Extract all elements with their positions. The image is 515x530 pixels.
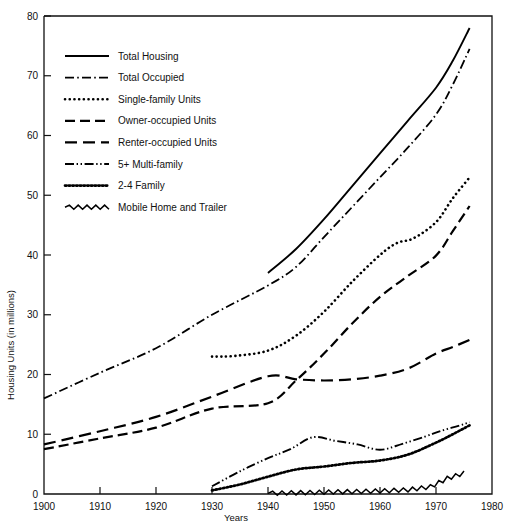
legend-label: Total Occupied: [118, 72, 184, 83]
y-tick-label: 60: [27, 130, 39, 141]
x-tick-label: 1910: [89, 501, 112, 512]
legend-item: Total Occupied: [65, 72, 184, 83]
series-line-2-4-family: [212, 425, 470, 490]
x-axis-title: Years: [224, 512, 248, 523]
legend-item: Total Housing: [65, 51, 179, 62]
legend-label: 2-4 Family: [118, 180, 165, 191]
x-tick-label: 1960: [369, 501, 392, 512]
y-tick-label: 0: [32, 489, 38, 500]
x-tick-label: 1980: [481, 501, 504, 512]
x-tick-label: 1970: [425, 501, 448, 512]
series-line-owner-occupied-units: [44, 206, 470, 449]
legend-item: 5+ Multi-family: [65, 159, 183, 170]
axes: 0102030405060708019001910192019301940195…: [27, 11, 504, 512]
y-tick-label: 30: [27, 309, 39, 320]
x-tick-label: 1900: [33, 501, 56, 512]
legend-label: Single-family Units: [118, 94, 201, 105]
legend-item: Owner-occupied Units: [65, 115, 216, 126]
y-tick-label: 40: [27, 250, 39, 261]
x-tick-label: 1920: [145, 501, 168, 512]
series-line-renter-occupied-units: [44, 340, 470, 445]
y-tick-label: 10: [27, 429, 39, 440]
series-line-mobile-home-and-trailer: [268, 471, 464, 495]
legend-label: Owner-occupied Units: [118, 115, 216, 126]
x-tick-label: 1940: [257, 501, 280, 512]
legend-item: Mobile Home and Trailer: [65, 202, 228, 213]
series-line-5-multi-family: [212, 422, 470, 486]
housing-units-line-chart: 0102030405060708019001910192019301940195…: [0, 0, 515, 530]
x-tick-label: 1930: [201, 501, 224, 512]
chart-legend: Total HousingTotal OccupiedSingle-family…: [65, 51, 228, 213]
legend-item: 2-4 Family: [65, 180, 165, 191]
legend-label: Mobile Home and Trailer: [118, 202, 228, 213]
legend-item: Renter-occupied Units: [65, 137, 217, 148]
legend-label: 5+ Multi-family: [118, 159, 183, 170]
y-tick-label: 50: [27, 190, 39, 201]
series-line-total-occupied: [44, 49, 470, 399]
y-tick-label: 80: [27, 11, 39, 22]
legend-swatch-zigzag: [65, 205, 109, 209]
y-axis-title: Housing Units (in millions): [5, 290, 16, 400]
y-tick-label: 70: [27, 70, 39, 81]
x-tick-label: 1950: [313, 501, 336, 512]
chart-container: 0102030405060708019001910192019301940195…: [0, 0, 515, 530]
series-line-total-housing: [268, 28, 470, 273]
legend-item: Single-family Units: [65, 94, 201, 105]
y-tick-label: 20: [27, 369, 39, 380]
legend-label: Total Housing: [118, 51, 179, 62]
legend-label: Renter-occupied Units: [118, 137, 217, 148]
series-line-single-family-units: [212, 177, 470, 356]
